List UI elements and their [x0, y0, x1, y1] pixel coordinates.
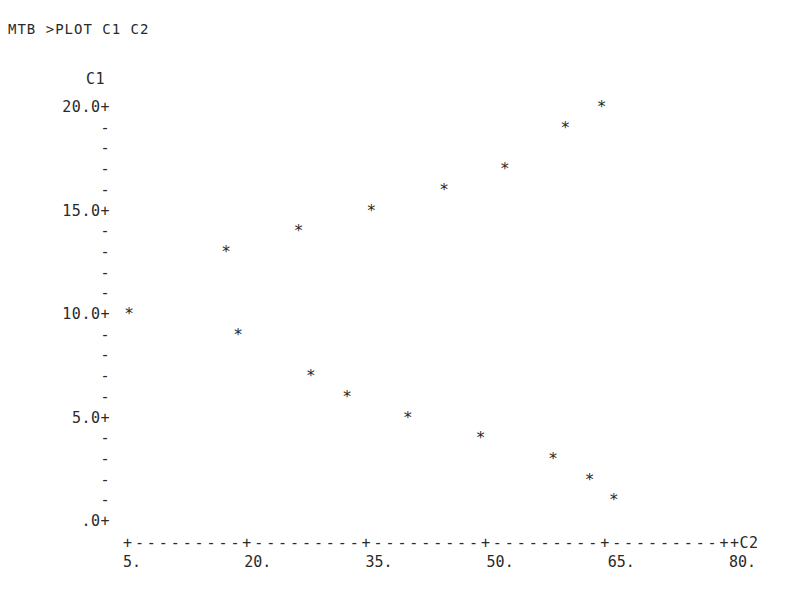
- data-point-marker: *: [232, 327, 244, 343]
- data-point-marker: *: [305, 368, 317, 384]
- data-point-marker: *: [293, 223, 305, 239]
- x-tick-label: 20.: [244, 554, 271, 570]
- y-minor-tick: -: [0, 388, 110, 406]
- data-point-marker: *: [474, 430, 486, 446]
- x-tick-label: 5.: [123, 554, 141, 570]
- command-line: MTB >PLOT C1 C2: [8, 20, 149, 38]
- y-minor-tick: -: [0, 119, 110, 137]
- data-point-marker: *: [402, 410, 414, 426]
- y-minor-tick: -: [0, 139, 110, 157]
- y-tick-label: 10.0+: [0, 305, 110, 323]
- data-point-marker: *: [596, 99, 608, 115]
- y-minor-tick: -: [0, 429, 110, 447]
- data-point-marker: *: [499, 161, 511, 177]
- data-point-marker: *: [608, 492, 620, 508]
- y-tick-label: 15.0+: [0, 202, 110, 220]
- y-axis-label: C1: [86, 70, 105, 88]
- x-axis-label: +C2: [730, 534, 759, 552]
- y-minor-tick: -: [0, 222, 110, 240]
- x-tick-label: 65.: [608, 554, 635, 570]
- y-tick-label: .0+: [0, 512, 110, 530]
- y-tick-label: 20.0+: [0, 98, 110, 116]
- y-tick-label: 5.0+: [0, 409, 110, 427]
- y-minor-tick: -: [0, 284, 110, 302]
- data-point-marker: *: [547, 451, 559, 467]
- y-minor-tick: -: [0, 264, 110, 282]
- data-point-marker: *: [220, 244, 232, 260]
- data-point-marker: *: [559, 120, 571, 136]
- x-axis-line: +---------+---------+---------+---------…: [123, 534, 731, 552]
- y-minor-tick: -: [0, 160, 110, 178]
- y-minor-tick: -: [0, 491, 110, 509]
- y-minor-tick: -: [0, 326, 110, 344]
- x-tick-label: 80.: [729, 554, 756, 570]
- data-point-marker: *: [584, 472, 596, 488]
- data-point-marker: *: [365, 203, 377, 219]
- y-minor-tick: -: [0, 450, 110, 468]
- data-point-marker: *: [341, 389, 353, 405]
- y-minor-tick: -: [0, 181, 110, 199]
- y-minor-tick: -: [0, 346, 110, 364]
- data-point-marker: *: [123, 306, 135, 322]
- y-minor-tick: -: [0, 471, 110, 489]
- x-tick-label: 35.: [365, 554, 392, 570]
- x-tick-label: 50.: [487, 554, 514, 570]
- y-minor-tick: -: [0, 243, 110, 261]
- data-point-marker: *: [438, 182, 450, 198]
- y-minor-tick: -: [0, 367, 110, 385]
